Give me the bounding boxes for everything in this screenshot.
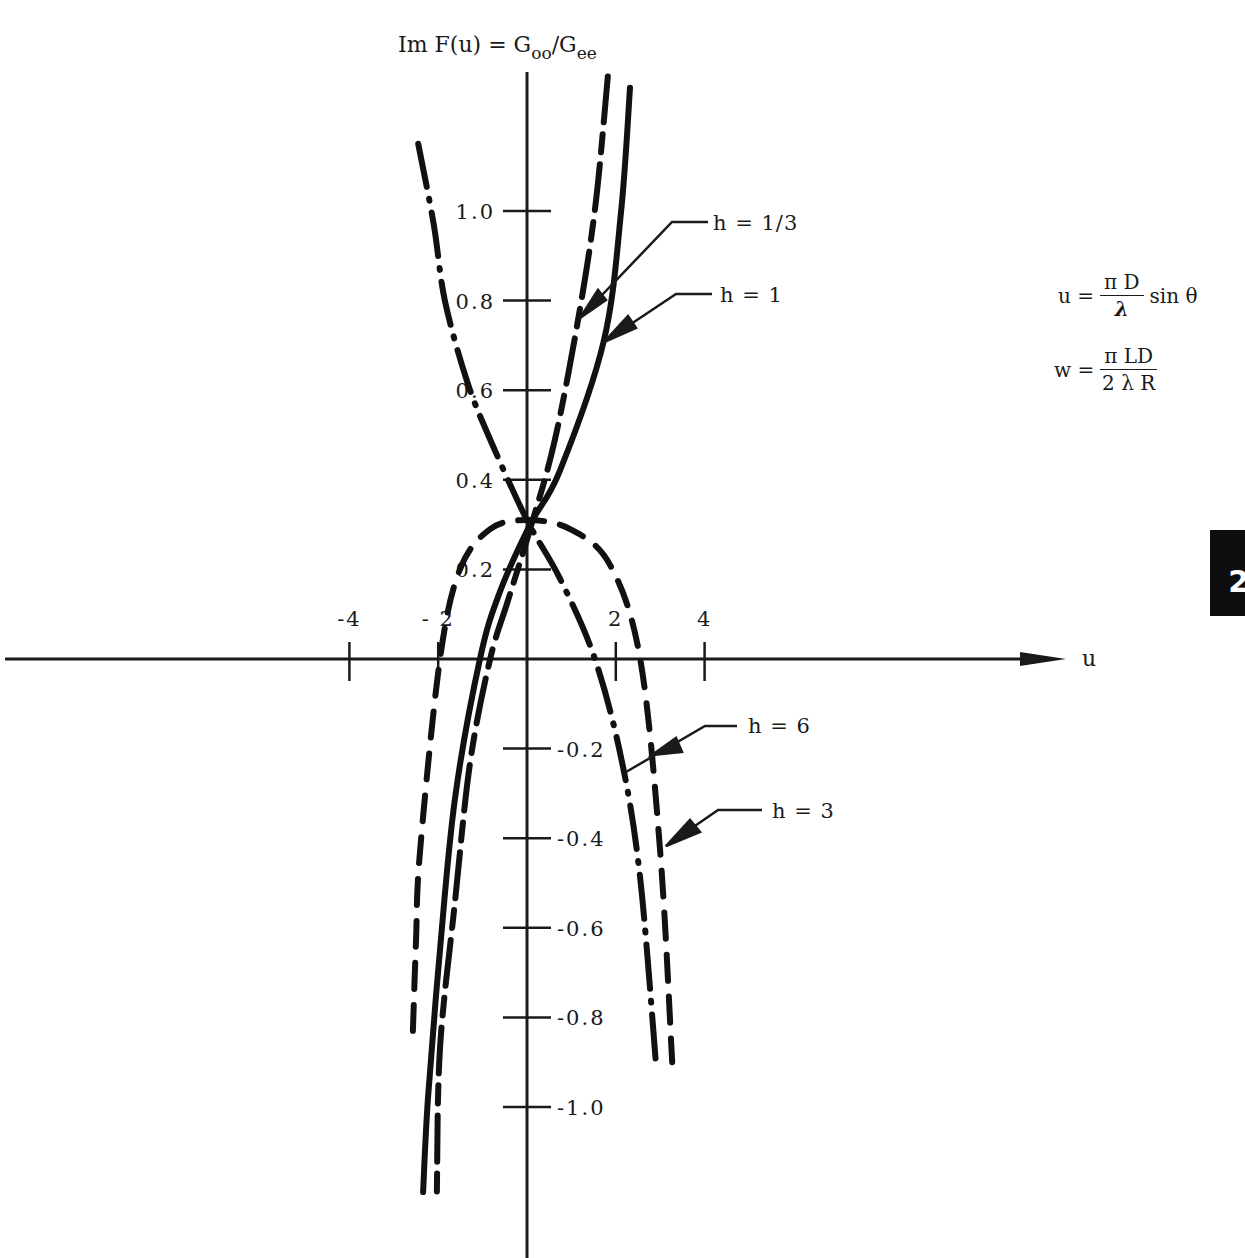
x-axis-label: u [1082, 646, 1096, 671]
formula-w-numerator: π LD [1100, 344, 1157, 370]
formula-u-lhs: u = [1058, 284, 1094, 308]
y-tick-label: -0.2 [557, 738, 606, 762]
annotation-h-three: h = 3 [666, 799, 835, 846]
annotation-label-h-one-third: h = 1/3 [713, 211, 798, 235]
annotation-label-h-one: h = 1 [720, 283, 783, 307]
y-tick-label: -0.8 [557, 1006, 606, 1030]
y-tick-label: 0.6 [456, 379, 495, 403]
y-axis-label-main: Im F(u) = G [398, 32, 531, 57]
formula-u: u = π D λ sin θ [1058, 270, 1198, 321]
x-axis-arrow-icon [1020, 652, 1066, 666]
annotation-label-h-three: h = 3 [772, 799, 835, 823]
chart-canvas: -4- 224 1.00.80.60.40.2-0.2-0.4-0.6-0.8-… [0, 0, 1245, 1258]
series-layer [413, 77, 672, 1193]
y-tick-label: 0.8 [456, 290, 495, 314]
y-axis-label: Im F(u) = Goo/Gee [398, 32, 597, 63]
formula-u-denominator: λ [1115, 296, 1129, 321]
y-axis-label-sub2: ee [577, 43, 597, 63]
x-tick-label: -4 [337, 607, 361, 631]
x-ticks: -4- 224 [337, 607, 712, 681]
y-tick-label: 0.4 [456, 469, 495, 493]
x-tick-label: 4 [697, 607, 712, 631]
formula-u-tail: sin θ [1150, 284, 1198, 308]
formula-u-numerator: π D [1100, 270, 1144, 296]
y-axis-label-slash: /G [552, 32, 577, 57]
annotation-h-one: h = 1 [604, 283, 783, 342]
arrow-head-icon [652, 738, 682, 755]
page-tab: 2 [1210, 530, 1245, 616]
formula-w-fraction: π LD 2 λ R [1100, 344, 1157, 395]
formula-u-fraction: π D λ [1100, 270, 1144, 321]
x-tick-label: 2 [608, 607, 623, 631]
formula-w-lhs: w = [1054, 358, 1094, 382]
y-tick-label: 1.0 [456, 200, 495, 224]
y-tick-label: -0.6 [557, 917, 606, 941]
formula-w: w = π LD 2 λ R [1054, 344, 1163, 395]
page-tab-label: 2 [1228, 564, 1245, 599]
formula-w-denominator: 2 λ R [1102, 370, 1155, 395]
series-h-3 [413, 520, 672, 1062]
y-axis-label-sub1: oo [531, 43, 551, 63]
annotation-label-h-six: h = 6 [748, 714, 811, 738]
axes [5, 72, 1066, 1258]
y-tick-label: -0.4 [557, 827, 606, 851]
y-tick-label: -1.0 [557, 1096, 606, 1120]
arrow-head-icon [666, 820, 700, 846]
